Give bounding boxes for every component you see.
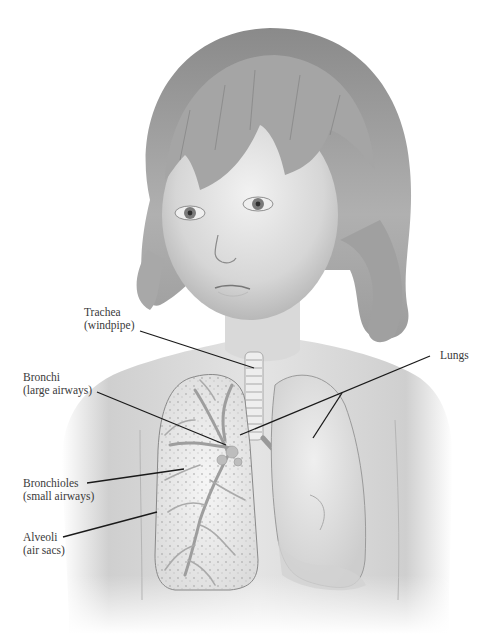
bronchioles-name: Bronchioles [23, 477, 94, 490]
child-illustration [0, 0, 493, 634]
left-lung-cutaway [155, 374, 258, 590]
label-bronchi: Bronchi (large airways) [23, 371, 92, 397]
label-bronchioles: Bronchioles (small airways) [23, 477, 94, 503]
bronchioles-desc: (small airways) [23, 490, 94, 503]
trachea-name: Trachea [84, 306, 134, 319]
bronchi-name: Bronchi [23, 371, 92, 384]
bronchi-desc: (large airways) [23, 384, 92, 397]
label-alveoli: Alveoli (air sacs) [23, 531, 65, 557]
alveoli-desc: (air sacs) [23, 544, 65, 557]
anatomy-diagram: Trachea (windpipe) Bronchi (large airway… [0, 0, 493, 634]
trachea-desc: (windpipe) [84, 319, 134, 332]
label-lungs: Lungs [440, 349, 469, 362]
alveoli-name: Alveoli [23, 531, 65, 544]
label-trachea: Trachea (windpipe) [84, 306, 134, 332]
lungs-name: Lungs [440, 349, 469, 362]
